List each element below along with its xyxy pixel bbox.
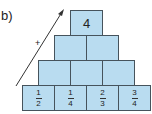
pyramid-cell-r3-1[interactable]: [38, 60, 71, 86]
denominator: 4: [68, 100, 72, 108]
denominator: 3: [100, 100, 104, 108]
top-value: 4: [83, 16, 90, 31]
pyramid-cell-r3-3[interactable]: [102, 60, 135, 86]
pyramid-cell-bottom-1: 12: [22, 85, 55, 111]
pyramid-cell-bottom-3: 23: [86, 85, 119, 111]
pyramid-cell-r3-2[interactable]: [70, 60, 103, 86]
pyramid-cell-bottom-4: 34: [118, 85, 151, 111]
fraction: 23: [100, 89, 106, 108]
numerator: 2: [100, 89, 104, 97]
denominator: 4: [132, 100, 136, 108]
pyramid-top-cell: 4: [70, 10, 103, 36]
plus-sign: +: [35, 38, 40, 48]
fraction: 34: [132, 89, 138, 108]
numerator: 1: [36, 89, 40, 97]
pyramid-cell-bottom-2: 14: [54, 85, 87, 111]
numerator: 1: [68, 89, 72, 97]
fraction: 14: [68, 89, 74, 108]
pyramid-cell-r2-2[interactable]: [86, 35, 119, 61]
pyramid-cell-r2-1[interactable]: [54, 35, 87, 61]
denominator: 2: [36, 100, 40, 108]
fraction: 12: [36, 89, 42, 108]
numerator: 3: [132, 89, 136, 97]
